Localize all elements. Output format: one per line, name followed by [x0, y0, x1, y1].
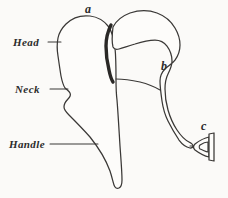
- label-letter-c: c: [201, 119, 207, 133]
- label-neck: Neck: [14, 83, 40, 95]
- stapes-footplate: [209, 133, 214, 161]
- stapes-outline: [194, 137, 210, 157]
- incus-inner-contour: [116, 79, 160, 90]
- label-letter-a: a: [85, 2, 91, 16]
- label-letter-b: b: [161, 59, 167, 73]
- ossicles-diagram: Head Neck Handle a b c: [0, 0, 228, 198]
- label-handle: Handle: [8, 138, 45, 150]
- label-head: Head: [12, 36, 39, 48]
- figure-canvas: Head Neck Handle a b c: [0, 0, 228, 198]
